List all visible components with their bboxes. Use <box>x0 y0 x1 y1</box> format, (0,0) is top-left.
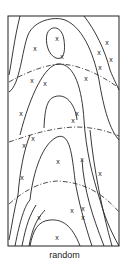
contour-line <box>30 136 92 246</box>
contour-line <box>90 130 112 246</box>
x-marker: x <box>98 64 102 71</box>
dashdot-line <box>9 127 119 142</box>
x-marker: x <box>33 45 37 52</box>
x-marker: x <box>56 158 60 165</box>
x-marker: x <box>20 174 24 181</box>
contour-line <box>84 16 119 90</box>
x-marker: x <box>81 205 85 212</box>
x-marker: x <box>98 170 102 177</box>
contour-line <box>9 19 119 140</box>
frame <box>8 16 119 246</box>
x-marker: x <box>109 56 113 63</box>
x-marker: x <box>55 234 59 241</box>
x-marker: x <box>105 39 109 46</box>
x-marker: x <box>80 156 84 163</box>
x-marker: x <box>70 207 74 214</box>
x-marker: x <box>19 110 23 117</box>
x-marker: x <box>60 53 64 60</box>
contour-line <box>20 64 119 246</box>
x-marker: x <box>81 214 85 221</box>
contour-diagram: xxxxxxxxxxxxxxxxxxxxxxxx <box>0 0 129 267</box>
x-marker: x <box>75 110 79 117</box>
x-marker: x <box>22 142 26 149</box>
x-marker: x <box>30 77 34 84</box>
x-marker: x <box>37 214 41 221</box>
x-marker: x <box>55 35 59 42</box>
x-marker: x <box>31 135 35 142</box>
x-marker: x <box>43 80 47 87</box>
caption: random <box>0 250 129 260</box>
contour-line <box>9 16 20 75</box>
contour-line <box>9 195 18 240</box>
dashdot-line <box>9 64 119 88</box>
x-marker: x <box>97 49 101 56</box>
x-marker: x <box>84 75 88 82</box>
x-marker: x <box>71 117 75 124</box>
